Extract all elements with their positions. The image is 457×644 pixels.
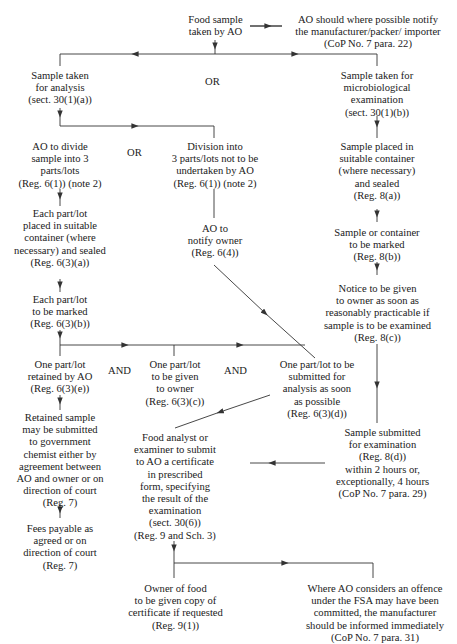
node-retained: One part/lot retained by AO (Reg. 6(3)(e… <box>10 359 110 396</box>
node-micro-marked: Sample or container to be marked (Reg. 8… <box>317 227 437 264</box>
connector-and-1: AND <box>108 365 131 377</box>
node-micro-submitted: Sample submitted for examination (Reg. 8… <box>320 427 445 500</box>
node-notify-owner: AO to notify owner (Reg. 6(4)) <box>170 223 260 260</box>
node-sample-analysis: Sample taken for analysis (sect. 30(1)(a… <box>5 70 115 107</box>
connector-or-top: OR <box>205 76 220 88</box>
node-no-divide: Division into 3 parts/lots not to be und… <box>155 141 275 190</box>
node-notify-manufacturer: AO should where possible notify the manu… <box>282 14 454 51</box>
node-owner-copy: Owner of food to be given copy of certif… <box>118 583 233 632</box>
connector-and-2: AND <box>224 365 247 377</box>
node-fees: Fees payable as agreed or on direction o… <box>5 523 115 572</box>
node-micro-container: Sample placed in suitable container (whe… <box>322 141 432 202</box>
node-each-placed: Each part/lot placed in suitable contain… <box>0 208 120 269</box>
node-micro-notice: Notice to be given to owner as soon as r… <box>310 283 445 344</box>
node-retained-submit: Retained sample may be submitted to gove… <box>0 412 120 510</box>
node-sample-micro: Sample taken for microbiological examina… <box>322 70 432 119</box>
node-offence: Where AO considers an offence under the … <box>295 583 455 644</box>
node-submitted-analysis: One part/lot to be submitted for analysi… <box>262 359 372 420</box>
node-start: Food sample taken by AO <box>168 14 263 38</box>
node-certificate: Food analyst or examiner to submit to AO… <box>120 432 230 542</box>
node-each-marked: Each part/lot to be marked (Reg. 6(3)(b)… <box>5 294 115 331</box>
node-given-owner: One part/lot to be given to owner (Reg. … <box>130 359 220 408</box>
node-divide: AO to divide sample into 3 parts/lots (R… <box>5 141 115 190</box>
connector-or-divide: OR <box>127 147 142 159</box>
